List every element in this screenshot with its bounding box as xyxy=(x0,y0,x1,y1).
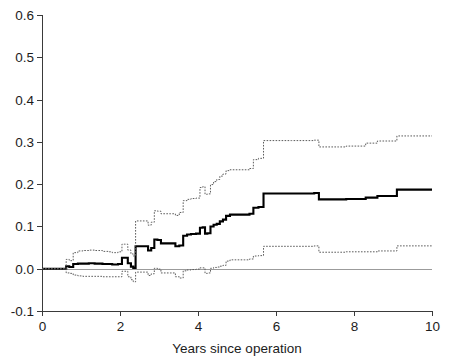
series-line-estimate xyxy=(42,190,432,269)
x-tick-label: 6 xyxy=(273,319,281,334)
x-tick-label: 2 xyxy=(117,319,125,334)
x-tick-label: 4 xyxy=(195,319,203,334)
y-tick-label: 0.5 xyxy=(15,50,34,65)
y-tick-label: 0.1 xyxy=(15,219,34,234)
x-tick-label: 8 xyxy=(351,319,359,334)
y-tick-label: 0.0 xyxy=(15,262,34,277)
series-layer xyxy=(42,136,432,282)
y-axis-tick-marks xyxy=(37,16,42,312)
series-line-confidence-limit xyxy=(42,136,432,269)
x-tick-label: 10 xyxy=(425,319,440,334)
x-tick-label: 0 xyxy=(39,319,47,334)
y-tick-label: 0.6 xyxy=(15,8,34,23)
x-axis-tick-labels: 0246810 xyxy=(39,319,440,334)
y-tick-label: 0.4 xyxy=(15,93,34,108)
y-tick-label: 0.3 xyxy=(15,135,34,150)
x-axis-title: Years since operation xyxy=(172,341,301,356)
y-tick-label: 0.2 xyxy=(15,177,34,192)
plot-frame xyxy=(43,15,433,312)
y-tick-label: -0.1 xyxy=(11,304,34,319)
y-axis-tick-labels: -0.10.00.10.20.30.40.50.6 xyxy=(11,8,35,319)
cumulative-incidence-chart: -0.10.00.10.20.30.40.50.6 0246810 Years … xyxy=(0,0,453,359)
figure-container: -0.10.00.10.20.30.40.50.6 0246810 Years … xyxy=(0,0,453,359)
